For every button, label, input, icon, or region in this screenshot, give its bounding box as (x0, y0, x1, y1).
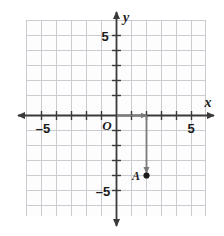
x-tick-label-5: 5 (187, 121, 194, 136)
x-axis-label: x (204, 95, 212, 110)
y-tick-label-5: 5 (101, 29, 108, 44)
coordinate-plane-svg: x y O –5 5 5 –5 A (0, 0, 224, 236)
y-axis-label: y (121, 10, 130, 25)
y-tick-label-neg5: –5 (96, 184, 110, 199)
coordinate-plane-figure: x y O –5 5 5 –5 A (0, 0, 224, 236)
origin-label: O (102, 118, 112, 133)
point-a-label: A (131, 169, 140, 183)
x-tick-label-neg5: –5 (36, 121, 50, 136)
point-a-marker (143, 172, 149, 178)
